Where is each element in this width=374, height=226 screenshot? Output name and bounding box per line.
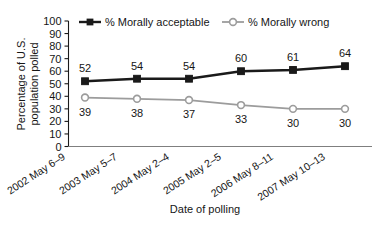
data-series-group (82, 63, 349, 112)
y-axis-tick-label: 80 (49, 40, 61, 52)
y-axis: 0102030405060708090100 (43, 15, 68, 153)
x-axis: 2002 May 6–92003 May 5–72004 May 2–42005… (5, 147, 372, 203)
data-point-marker (82, 78, 89, 85)
data-point-marker (186, 97, 193, 104)
y-axis-tick-label: 60 (49, 65, 61, 77)
legend-marker-wrong (230, 19, 237, 26)
line-chart: 0102030405060708090100 2002 May 6–92003 … (0, 0, 374, 226)
data-point-value: 33 (235, 113, 247, 125)
data-point-value: 30 (287, 117, 299, 129)
y-axis-tick-label: 10 (49, 128, 61, 140)
data-point-marker (82, 94, 89, 101)
data-point-value: 39 (79, 106, 91, 118)
legend-marker-acceptable (87, 19, 94, 26)
y-axis-tick-label: 30 (49, 103, 61, 115)
series-line (85, 66, 345, 81)
x-axis-title: Date of polling (170, 203, 240, 215)
data-point-marker (238, 68, 245, 75)
data-point-marker (134, 95, 141, 102)
legend-label-wrong: % Morally wrong (248, 16, 329, 28)
data-point-value: 64 (339, 47, 351, 59)
data-point-labels: 525454606164393837333030 (79, 47, 351, 129)
series-line (85, 98, 345, 109)
legend-label-acceptable: % Morally acceptable (105, 16, 210, 28)
y-axis-tick-label: 70 (49, 53, 61, 65)
chart-legend: % Morally acceptable% Morally wrong (79, 16, 329, 28)
data-point-marker (238, 102, 245, 109)
data-point-value: 60 (235, 52, 247, 64)
data-point-marker (134, 75, 141, 82)
y-axis-tick-label: 90 (49, 28, 61, 40)
data-point-marker (342, 105, 349, 112)
y-axis-tick-label: 50 (49, 78, 61, 90)
data-point-value: 52 (79, 62, 91, 74)
data-point-value: 54 (131, 60, 143, 72)
data-point-value: 61 (287, 51, 299, 63)
data-point-value: 37 (183, 108, 195, 120)
chart-container: 0102030405060708090100 2002 May 6–92003 … (0, 0, 374, 226)
data-point-value: 30 (339, 117, 351, 129)
data-point-marker (342, 63, 349, 70)
y-axis-title-line2: population polled (28, 42, 40, 125)
y-axis-tick-label: 40 (49, 90, 61, 102)
data-point-value: 54 (183, 60, 195, 72)
data-point-value: 38 (131, 107, 143, 119)
data-point-marker (290, 67, 297, 74)
data-point-marker (186, 75, 193, 82)
y-axis-title-line1: Percentage of U.S. (15, 38, 27, 131)
data-point-marker (290, 105, 297, 112)
y-axis-tick-label: 100 (43, 15, 61, 27)
y-axis-tick-label: 20 (49, 115, 61, 127)
